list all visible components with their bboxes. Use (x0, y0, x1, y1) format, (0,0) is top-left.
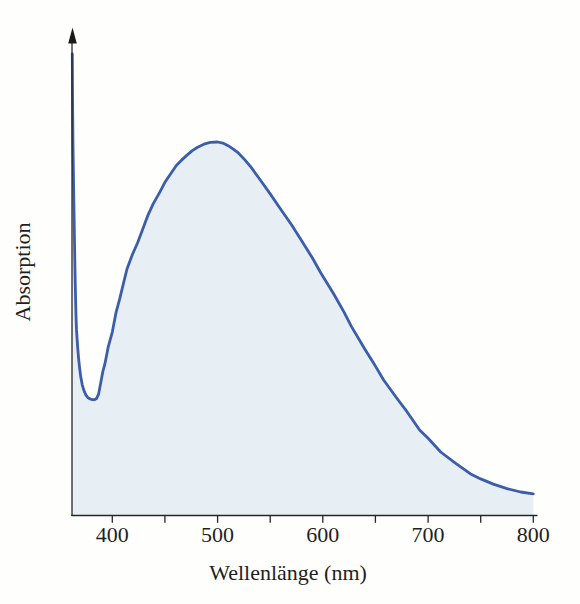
x-axis-tick-labels: 400500600700800 (96, 522, 550, 547)
x-tick-label-400: 400 (96, 522, 129, 547)
y-axis-arrow-icon (68, 28, 77, 44)
curve-fill-area (72, 54, 533, 516)
absorption-spectrum-figure: 400500600700800 Absorption Wellenlänge (… (0, 0, 580, 604)
x-tick-label-500: 500 (201, 522, 234, 547)
y-axis-title: Absorption (10, 223, 35, 322)
x-tick-label-700: 700 (412, 522, 445, 547)
x-tick-label-800: 800 (517, 522, 550, 547)
absorption-spectrum-chart: 400500600700800 Absorption Wellenlänge (… (0, 0, 580, 604)
x-axis-title: Wellenlänge (nm) (209, 560, 367, 585)
x-tick-label-600: 600 (306, 522, 339, 547)
